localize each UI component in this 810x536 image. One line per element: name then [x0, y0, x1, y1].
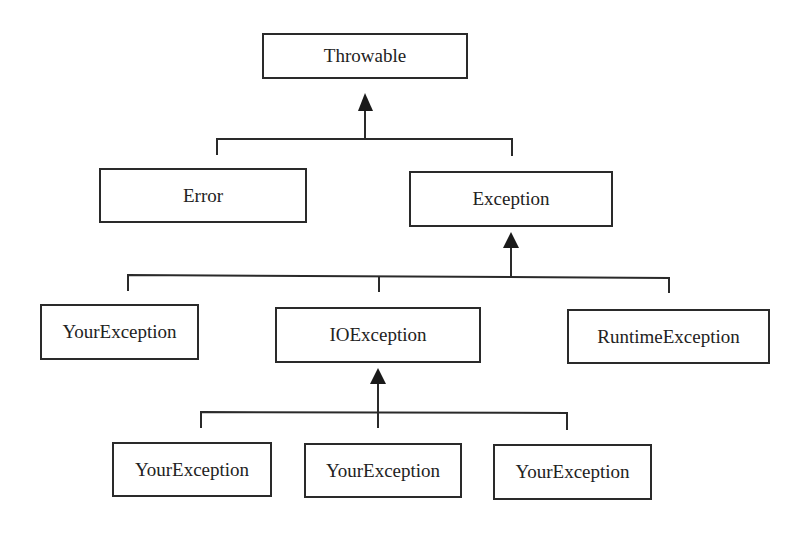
- arrowhead-icon: [370, 368, 386, 384]
- node-error: Error: [99, 168, 307, 223]
- connector-ioexception-children: [201, 412, 567, 430]
- connector-exception-children: [128, 275, 669, 293]
- node-throwable: Throwable: [262, 33, 468, 79]
- node-io-exception: IOException: [275, 307, 481, 363]
- node-your-exception: YourException: [304, 443, 462, 498]
- node-exception: Exception: [409, 171, 613, 227]
- node-runtime-exception: RuntimeException: [567, 309, 770, 364]
- arrowhead-icon: [503, 232, 519, 248]
- node-your-exception: YourException: [112, 442, 272, 497]
- arrowhead-icon: [358, 93, 373, 111]
- node-your-exception: YourException: [40, 304, 199, 360]
- connector-throwable-children: [217, 139, 512, 156]
- exception-hierarchy-diagram: Throwable Error Exception YourException …: [0, 0, 810, 536]
- node-your-exception: YourException: [493, 444, 652, 500]
